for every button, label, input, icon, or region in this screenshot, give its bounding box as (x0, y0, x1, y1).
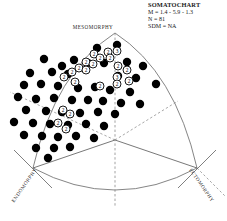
data-point (90, 134, 98, 142)
data-point (99, 97, 107, 105)
data-point (152, 80, 160, 88)
cluster-marker: 2 (68, 68, 76, 76)
data-point (50, 94, 58, 102)
legend-sample-size: N = 81 (148, 16, 227, 23)
cluster-marker: 2 (54, 119, 62, 127)
cluster-marker-count: 2 (99, 83, 102, 89)
cluster-marker-count: 3 (116, 74, 119, 80)
cluster-marker-count: 3 (116, 48, 119, 54)
cluster-marker-count: 2 (92, 61, 95, 67)
cluster-marker: 2 (82, 66, 90, 74)
cluster-marker-count: 2 (116, 81, 119, 87)
data-point (38, 132, 46, 140)
cluster-marker-count: 2 (78, 65, 81, 71)
cluster-marker-count: 2 (85, 67, 88, 73)
data-point (139, 62, 147, 70)
cluster-marker-count: 2 (99, 55, 102, 61)
data-point (66, 143, 74, 151)
data-point (20, 131, 28, 139)
data-point (37, 80, 45, 88)
cluster-marker-count: 2 (65, 126, 68, 132)
cluster-marker: 2 (62, 125, 70, 133)
data-point (42, 107, 50, 115)
legend-mean-value: M = 1.4 - 5.9 - 1.3 (148, 9, 227, 16)
somatochart-figure: 2232222222223222222222 SOMATOCHART M = 1… (0, 0, 227, 221)
cluster-marker-count: 2 (71, 69, 74, 75)
data-point (84, 96, 92, 104)
cluster-marker-count: 2 (109, 55, 112, 61)
data-point (26, 69, 34, 77)
data-point (46, 120, 54, 128)
data-point (50, 144, 58, 152)
data-point (70, 56, 78, 64)
data-point (111, 110, 119, 118)
data-point (48, 68, 56, 76)
data-point (126, 88, 134, 96)
cluster-marker: 2 (71, 78, 79, 86)
somatochart-plot: 2232222222223222222222 (0, 0, 227, 221)
cluster-marker: 2 (96, 82, 104, 90)
data-point (40, 55, 48, 63)
data-point (94, 108, 102, 116)
data-point (117, 99, 125, 107)
cluster-marker: 2 (66, 110, 74, 118)
legend-block: SOMATOCHART M = 1.4 - 5.9 - 1.3 N = 81 S… (148, 1, 227, 30)
data-point (32, 144, 40, 152)
cluster-marker-count: 2 (117, 63, 120, 69)
arc-right-boundary (115, 33, 197, 168)
cluster-marker: 2 (114, 62, 122, 70)
cluster-marker-count: 2 (63, 74, 66, 80)
cluster-marker: 2 (106, 54, 114, 62)
data-point (44, 154, 52, 162)
cluster-marker-count: 2 (128, 78, 131, 84)
cluster-marker: 2 (89, 60, 97, 68)
data-point (58, 62, 66, 70)
cluster-marker: 2 (113, 80, 121, 88)
cluster-marker-count: 2 (126, 67, 129, 73)
cluster-marker-count: 2 (74, 79, 77, 85)
cluster-marker-count: 2 (85, 59, 88, 65)
data-point (10, 118, 18, 126)
data-point (29, 119, 37, 127)
data-point (54, 133, 62, 141)
data-point (76, 109, 84, 117)
data-point (106, 86, 114, 94)
cluster-marker-count: 2 (57, 120, 60, 126)
cluster-marker-count: 2 (62, 107, 65, 113)
legend-title: SOMATOCHART (148, 1, 227, 9)
data-point (54, 82, 62, 90)
data-point (22, 106, 30, 114)
cluster-marker-count: 2 (93, 51, 96, 57)
data-point (72, 132, 80, 140)
divider-center-to-left-vertex (33, 140, 115, 168)
cluster-marker-count: 2 (69, 111, 72, 117)
cluster-marker: 2 (96, 54, 104, 62)
data-point (14, 93, 22, 101)
data-point (82, 120, 90, 128)
cluster-marker: 2 (123, 66, 131, 74)
data-point (32, 95, 40, 103)
data-point (20, 81, 28, 89)
data-point (136, 100, 144, 108)
cluster-marker: 2 (60, 73, 68, 81)
data-point (68, 96, 76, 104)
cluster-marker: 3 (113, 47, 121, 55)
data-point (100, 122, 108, 130)
axis-label-mesomorphy: MESOMORPHY (62, 24, 124, 30)
legend-sdm-value: SDM = NA (148, 23, 227, 30)
data-point (123, 58, 131, 66)
cluster-marker: 2 (125, 77, 133, 85)
dashed-guide-upper-right (115, 101, 178, 140)
